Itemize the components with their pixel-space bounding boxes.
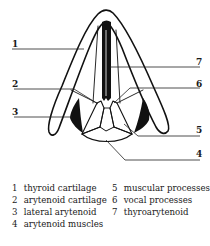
- callout-7: 7: [196, 58, 202, 67]
- legend-item-2: 2 arytenoid cartilage: [12, 194, 107, 206]
- legend-number: 6: [112, 194, 121, 206]
- callout-5: 5: [196, 126, 202, 135]
- legend-item-7: 7 thyroarytenoid: [112, 206, 188, 218]
- legend-text: arytenoid muscles: [24, 219, 103, 229]
- lateral-arytenoid-right-shape: [134, 98, 149, 133]
- legend-text: arytenoid cartilage: [24, 195, 107, 205]
- legend-number: 2: [12, 194, 21, 206]
- left-arytenoid-shape: [82, 101, 104, 134]
- legend-number: 1: [12, 182, 21, 194]
- larynx-illustration: [0, 0, 210, 180]
- legend-item-1: 1 thyroid cartilage: [12, 182, 97, 194]
- callout-2: 2: [12, 80, 18, 89]
- legend-number: 5: [112, 182, 121, 194]
- legend-text: thyroid cartilage: [24, 183, 97, 193]
- legend-item-4: 4 arytenoid muscles: [12, 218, 103, 230]
- leader-line-4: [106, 140, 200, 160]
- legend-text: muscular processes: [124, 183, 210, 193]
- arytenoid-muscle-shape: [82, 134, 132, 142]
- callout-1: 1: [12, 40, 18, 49]
- legend-text: vocal processes: [124, 195, 192, 205]
- legend-item-5: 5 muscular processes: [112, 182, 210, 194]
- legend-text: lateral arytenoid: [24, 207, 97, 217]
- lateral-arytenoid-left-shape: [70, 98, 83, 133]
- legend-number: 7: [112, 206, 121, 218]
- callout-3: 3: [12, 108, 18, 117]
- legend-item-3: 3 lateral arytenoid: [12, 206, 96, 218]
- callout-6: 6: [196, 80, 202, 89]
- thyroarytenoid-shape: [102, 21, 111, 102]
- right-arytenoid-shape: [110, 101, 132, 134]
- legend-number: 3: [12, 206, 21, 218]
- legend-number: 4: [12, 218, 21, 230]
- legend-item-6: 6 vocal processes: [112, 194, 192, 206]
- callout-4: 4: [196, 150, 202, 159]
- larynx-diagram: 1 2 3 4 5 6 7: [0, 0, 210, 180]
- legend-text: thyroarytenoid: [124, 207, 189, 217]
